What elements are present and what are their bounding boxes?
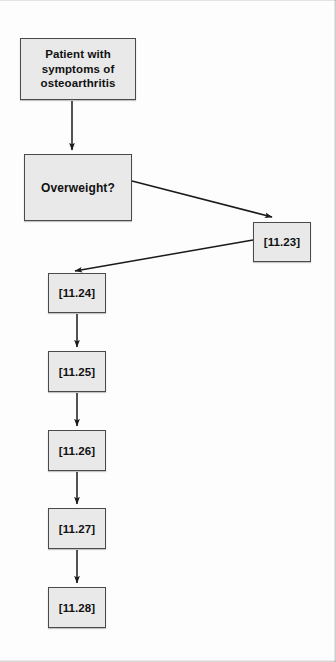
flow-node-overweight[interactable]: Overweight?	[24, 154, 132, 221]
flow-node-11-23[interactable]: [11.23]	[253, 222, 311, 262]
flow-node-label: [11.28]	[59, 602, 96, 614]
page-edge-top	[0, 0, 336, 1]
flow-node-11-25[interactable]: [11.25]	[48, 351, 106, 392]
flow-node-label: Patient with symptoms of osteoarthritis	[41, 47, 116, 91]
flow-node-11-26[interactable]: [11.26]	[48, 430, 106, 471]
flow-node-patient-symptoms[interactable]: Patient with symptoms of osteoarthritis	[20, 38, 136, 100]
connector-n3-n4	[75, 240, 253, 271]
flow-node-label: [11.25]	[59, 366, 96, 378]
flow-node-11-24[interactable]: [11.24]	[48, 273, 106, 313]
flowchart-page: Patient with symptoms of osteoarthritis …	[0, 0, 336, 662]
flow-node-11-27[interactable]: [11.27]	[48, 508, 106, 549]
flow-node-label: [11.23]	[264, 236, 301, 248]
flow-node-label: Overweight?	[41, 181, 115, 195]
flow-node-label: [11.27]	[59, 523, 96, 535]
connector-n2-n3	[132, 181, 272, 217]
flow-node-label: [11.24]	[59, 287, 96, 299]
flow-node-11-28[interactable]: [11.28]	[48, 587, 106, 628]
flow-node-label: [11.26]	[59, 445, 96, 457]
